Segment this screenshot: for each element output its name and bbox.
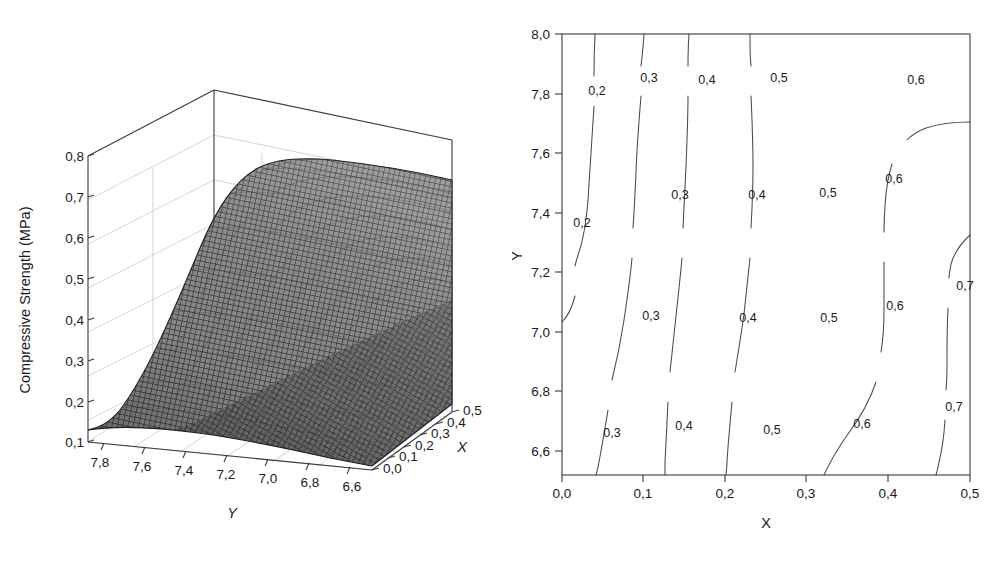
- contour-y-tick: 8,0: [531, 27, 550, 42]
- contour-line-04: [665, 402, 668, 475]
- surface-y-tick-labels: 7,8 7,6 7,4 7,2 7,0 6,8 6,6: [91, 455, 362, 494]
- contour-line-06: [907, 122, 970, 140]
- contour-label: 0,5: [763, 423, 780, 437]
- surface-y-tick: 7,8: [91, 455, 110, 470]
- contour-line-07: [946, 308, 948, 390]
- surface-x-tick: 0,0: [383, 461, 402, 476]
- contour-line-04: [683, 96, 688, 228]
- surface-y-tick: 7,4: [175, 463, 194, 478]
- contour-line-03: [596, 410, 608, 475]
- surface-x-axis-title: X: [456, 439, 468, 455]
- contour-label: 0,7: [945, 400, 962, 414]
- contour-x-tick: 0,5: [961, 486, 980, 501]
- surface-z-tick-labels: 0,8 0,7 0,6 0,5 0,4 0,3 0,2 0,1: [65, 149, 84, 450]
- contour-line-05: [751, 96, 753, 228]
- contour-line-06: [881, 262, 884, 352]
- surface-z-axis-title: Compressive Strength (MPa): [17, 207, 33, 394]
- contour-label: 0,4: [739, 311, 756, 325]
- surface-z-tick: 0,8: [65, 149, 84, 164]
- surface-z-tick: 0,3: [65, 354, 84, 369]
- surface-plot-panel: 0,8 0,7 0,6 0,5 0,4 0,3 0,2 0,1 Compress…: [0, 0, 504, 578]
- surface-z-tick: 0,6: [65, 231, 84, 246]
- contour-label: 0,6: [907, 73, 924, 87]
- contour-line-03: [633, 96, 641, 228]
- surface-z-tick: 0,2: [65, 395, 84, 410]
- contour-label: 0,2: [573, 216, 590, 230]
- surface-y-tick: 7,6: [133, 459, 152, 474]
- contour-label: 0,4: [698, 73, 715, 87]
- contour-x-tick: 0,1: [634, 486, 653, 501]
- surface-z-tick: 0,1: [65, 435, 84, 450]
- contour-label: 0,4: [748, 188, 765, 202]
- contour-label: 0,5: [770, 71, 787, 85]
- contour-labels: 0,2 0,3 0,4 0,5 0,6 0,2 0,3 0,4 0,5 0,6 …: [573, 71, 973, 440]
- contour-line-07: [949, 235, 970, 278]
- contour-label: 0,3: [603, 426, 620, 440]
- surface-y-tick: 7,0: [259, 471, 278, 486]
- surface-x-tick: 0,1: [399, 449, 418, 464]
- surface-shading: [80, 150, 460, 480]
- surface-x-tick: 0,2: [415, 438, 434, 453]
- contour-label: 0,6: [885, 172, 902, 186]
- contour-x-tick: 0,2: [716, 486, 735, 501]
- contour-x-tick: 0,3: [797, 486, 816, 501]
- contour-y-tick: 7,8: [531, 87, 550, 102]
- contour-y-tick: 7,4: [531, 206, 550, 221]
- contour-line-04: [688, 34, 689, 66]
- contour-label: 0,6: [853, 417, 870, 431]
- contour-label: 0,7: [956, 279, 973, 293]
- contour-label: 0,6: [886, 299, 903, 313]
- surface-y-tick: 6,8: [301, 475, 320, 490]
- contour-y-tick: 6,6: [531, 444, 550, 459]
- contour-label: 0,5: [820, 311, 837, 325]
- contour-line-05: [726, 402, 732, 475]
- surface-z-tick: 0,5: [65, 272, 84, 287]
- contour-plot-frame: [562, 34, 970, 475]
- contour-x-tick-labels: 0,0 0,1 0,2 0,3 0,4 0,5: [553, 486, 980, 501]
- contour-line-02: [562, 296, 575, 322]
- contour-y-tick: 7,6: [531, 146, 550, 161]
- contour-line-03: [641, 34, 644, 66]
- contour-plot-svg: 8,0 7,8 7,6 7,4 7,2 7,0 6,8 6,6 Y: [504, 0, 1008, 578]
- figure-root: 0,8 0,7 0,6 0,5 0,4 0,3 0,2 0,1 Compress…: [0, 0, 1008, 578]
- surface-y-axis-title: Y: [227, 505, 238, 521]
- surface-x-tick: 0,4: [447, 415, 466, 430]
- surface-y-tick: 7,2: [217, 467, 236, 482]
- contour-y-tick: 7,0: [531, 325, 550, 340]
- contour-y-axis-title: Y: [509, 251, 525, 261]
- contour-x-axis-title: X: [761, 515, 771, 531]
- contour-y-tick-labels: 8,0 7,8 7,6 7,4 7,2 7,0 6,8 6,6: [531, 27, 550, 459]
- contour-label: 0,2: [588, 84, 605, 98]
- contour-label: 0,3: [640, 71, 657, 85]
- contour-line-02: [575, 106, 594, 266]
- surface-z-tick: 0,7: [65, 190, 84, 205]
- contour-x-tick: 0,4: [879, 486, 898, 501]
- surface-plot-svg: 0,8 0,7 0,6 0,5 0,4 0,3 0,2 0,1 Compress…: [0, 0, 504, 578]
- contour-x-tickmarks: [562, 475, 970, 482]
- contour-label: 0,3: [671, 188, 688, 202]
- contour-y-tick: 7,2: [531, 265, 550, 280]
- contour-line-05: [750, 34, 751, 66]
- contour-x-tick: 0,0: [553, 486, 572, 501]
- contour-line-04: [670, 258, 682, 372]
- surface-x-tick: 0,3: [431, 426, 450, 441]
- surface-x-tick: 0,5: [463, 403, 482, 418]
- contour-line-07: [936, 420, 945, 475]
- contour-plot-panel: 8,0 7,8 7,6 7,4 7,2 7,0 6,8 6,6 Y: [504, 0, 1008, 578]
- contour-y-tickmarks: [555, 34, 562, 451]
- contour-label: 0,3: [642, 309, 659, 323]
- contour-line-03: [612, 258, 632, 380]
- contour-label: 0,4: [675, 419, 692, 433]
- contour-lines: [562, 34, 970, 475]
- surface-mesh: [80, 150, 460, 480]
- contour-y-tick: 6,8: [531, 384, 550, 399]
- surface-y-tick: 6,6: [343, 479, 362, 494]
- contour-label: 0,5: [819, 186, 836, 200]
- surface-z-tick: 0,4: [65, 313, 84, 328]
- contour-line-02: [594, 34, 595, 76]
